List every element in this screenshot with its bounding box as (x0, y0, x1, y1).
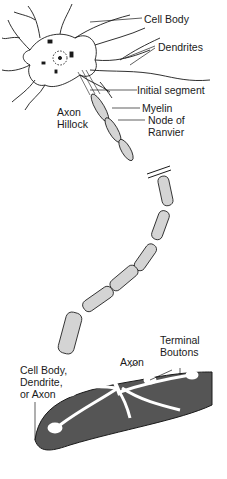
label-target-2: Dendrite, (20, 376, 63, 388)
label-axon-hillock-2: Hillock (57, 118, 88, 130)
label-dendrites: Dendrites (158, 41, 203, 53)
label-node-2: Ranvier (148, 126, 184, 138)
label-myelin: Myelin (142, 102, 172, 114)
label-node-1: Node of (148, 114, 185, 126)
myelin-upper (88, 92, 136, 163)
label-axon-hillock-1: Axon (57, 106, 81, 118)
label-terminal-2: Boutons (160, 346, 199, 358)
label-axon-bottom: Axon (120, 356, 144, 368)
break-marker (147, 166, 171, 178)
label-terminal-1: Terminal (160, 334, 200, 346)
label-target-1: Cell Body, (20, 364, 67, 376)
neuron-diagram (0, 0, 227, 479)
label-initial-segment: Initial segment (137, 84, 205, 96)
myelin-lower (57, 175, 174, 355)
label-cell-body: Cell Body (144, 13, 189, 25)
label-target-3: or Axon (20, 388, 56, 400)
